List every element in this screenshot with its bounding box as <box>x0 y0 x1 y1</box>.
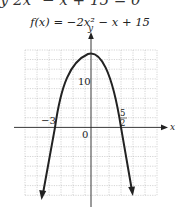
parabola-graph: y x 10 0 −3 5 2 <box>0 0 180 208</box>
svg-text:5: 5 <box>120 108 125 118</box>
svg-text:2: 2 <box>120 118 125 128</box>
curve-arrow-right-icon <box>128 187 135 197</box>
tick-label-10: 10 <box>78 76 91 87</box>
parabola-curve <box>43 54 132 195</box>
y-axis-label: y <box>87 23 94 33</box>
origin-label: 0 <box>82 129 88 140</box>
x-axis-arrow-icon <box>161 125 168 131</box>
x-axis-label: x <box>170 122 175 132</box>
root-left-label: −3 <box>41 115 56 126</box>
root-right-label: 5 2 <box>119 108 127 128</box>
y-axis-arrow-icon <box>88 32 94 39</box>
